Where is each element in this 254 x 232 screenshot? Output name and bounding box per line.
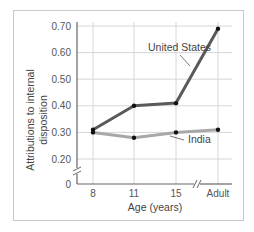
data-point-marker	[174, 130, 178, 134]
series-label-united-states: United States	[148, 41, 211, 53]
x-axis-break-icon	[193, 180, 201, 188]
x-tick-label: 8	[90, 188, 96, 199]
y-tick-label: 0.50	[52, 74, 72, 85]
leader-line-india	[170, 136, 184, 140]
y-axis-title-line-1: Attributions to internal	[24, 69, 36, 171]
x-tick-label: 11	[129, 188, 140, 199]
x-tick-labels: 81115Adult	[90, 188, 229, 199]
y-tick-label: 0.40	[52, 100, 72, 111]
data-point-marker	[132, 104, 136, 108]
line-chart: 00.200.300.400.500.600.70 81115Adult Uni…	[0, 0, 254, 232]
data-point-marker	[132, 136, 136, 140]
data-point-marker	[91, 128, 95, 132]
y-tick-label: 0.60	[52, 47, 72, 58]
data-point-marker	[216, 128, 220, 132]
y-tick-label: 0.20	[52, 154, 72, 165]
y-axis-title-line-2: disposition	[37, 95, 49, 145]
y-tick-label: 0.30	[52, 127, 72, 138]
series-label-india: India	[188, 133, 211, 145]
x-tick-label: Adult	[207, 188, 230, 199]
y-tick-label: 0.70	[52, 21, 72, 32]
leader-line-united-states	[180, 55, 190, 66]
x-tick-label: 15	[170, 188, 182, 199]
x-axis-title: Age (years)	[128, 201, 182, 213]
data-point-marker	[216, 26, 220, 30]
y-tick-label: 0	[65, 179, 71, 190]
y-tick-labels: 00.200.300.400.500.600.70	[52, 21, 72, 190]
y-axis-title: Attributions to internal disposition	[24, 69, 49, 171]
y-axis-break-icon	[73, 167, 81, 175]
data-point-marker	[174, 101, 178, 105]
